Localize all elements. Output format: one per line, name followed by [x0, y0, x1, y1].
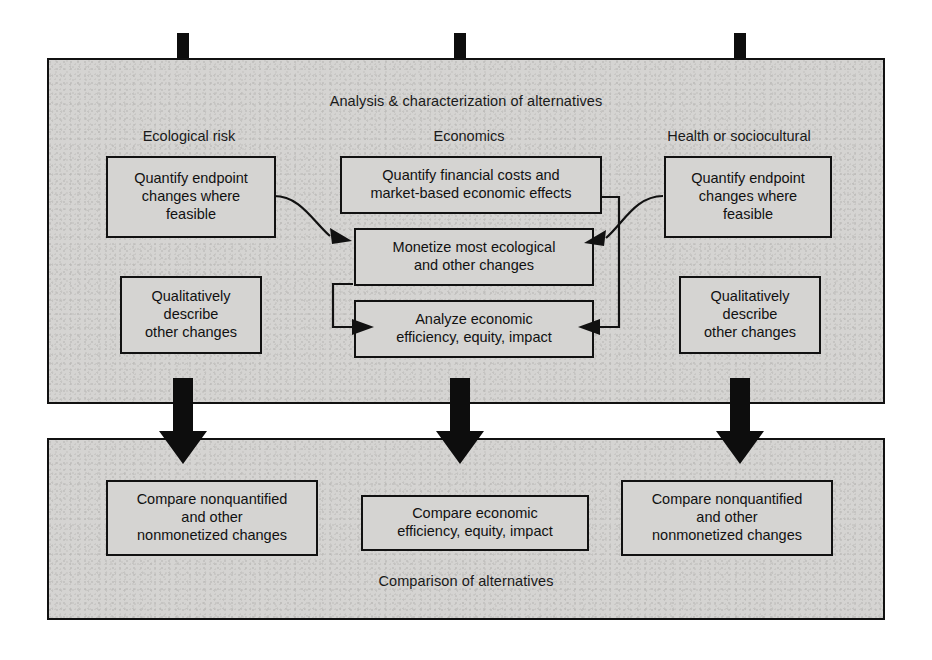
box-line: nonmonetized changes [137, 527, 288, 545]
box-line: Qualitatively [704, 288, 796, 306]
column-heading-ecological-risk: Ecological risk [79, 128, 299, 144]
box-line: and other [652, 509, 803, 527]
box-line: Qualitatively [145, 288, 237, 306]
box-line: Monetize most ecological [393, 239, 556, 257]
box-economics-monetize-changes: Monetize most ecological and other chang… [354, 228, 594, 286]
box-line: efficiency, equity, impact [396, 329, 552, 347]
box-ecological-quantify-endpoint: Quantify endpoint changes where feasible [106, 156, 276, 238]
column-heading-economics: Economics [339, 128, 599, 144]
box-line: market-based economic effects [370, 185, 571, 203]
box-line: other changes [145, 324, 237, 342]
box-line: Compare economic [397, 505, 553, 523]
box-line: feasible [691, 206, 805, 224]
box-line: Quantify financial costs and [370, 167, 571, 185]
box-line: nonmonetized changes [652, 527, 803, 545]
panel-comparison-caption: Comparison of alternatives [49, 573, 883, 589]
box-line: changes where [691, 188, 805, 206]
box-line: Analyze economic [396, 311, 552, 329]
box-health-qualitatively-describe: Qualitatively describe other changes [679, 276, 821, 354]
box-line: feasible [134, 206, 248, 224]
box-compare-nonquantified-left: Compare nonquantified and other nonmonet… [106, 480, 318, 556]
panel-analysis-caption: Analysis & characterization of alternati… [49, 93, 883, 109]
box-economics-quantify-financial-costs: Quantify financial costs and market-base… [340, 156, 602, 214]
box-line: Quantify endpoint [691, 170, 805, 188]
box-compare-nonquantified-right: Compare nonquantified and other nonmonet… [621, 480, 833, 556]
box-economics-analyze-efficiency: Analyze economic efficiency, equity, imp… [354, 300, 594, 358]
figure-canvas: Analysis & characterization of alternati… [0, 0, 932, 660]
box-line: Quantify endpoint [134, 170, 248, 188]
box-line: describe [145, 306, 237, 324]
box-health-quantify-endpoint: Quantify endpoint changes where feasible [664, 156, 832, 238]
column-heading-health-sociocultural: Health or sociocultural [619, 128, 859, 144]
box-compare-economic-efficiency: Compare economic efficiency, equity, imp… [361, 495, 589, 551]
box-line: changes where [134, 188, 248, 206]
box-line: other changes [704, 324, 796, 342]
box-line: and other [137, 509, 288, 527]
box-ecological-qualitatively-describe: Qualitatively describe other changes [120, 276, 262, 354]
panel-analysis-characterization: Analysis & characterization of alternati… [47, 58, 885, 404]
box-line: and other changes [393, 257, 556, 275]
box-line: describe [704, 306, 796, 324]
box-line: Compare nonquantified [652, 491, 803, 509]
panel-comparison-alternatives: Comparison of alternatives Compare nonqu… [47, 438, 885, 620]
box-line: Compare nonquantified [137, 491, 288, 509]
box-line: efficiency, equity, impact [397, 523, 553, 541]
